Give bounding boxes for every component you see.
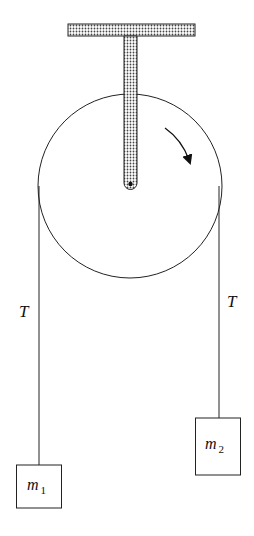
mass-symbol: m: [27, 476, 39, 493]
mass-subscript: 2: [219, 443, 225, 455]
rotation-arrow-icon: [165, 128, 189, 160]
atwood-diagram: [0, 0, 254, 536]
axle: [128, 182, 132, 186]
mass-label-2: m2: [205, 435, 224, 455]
tension-label-right: T: [227, 292, 236, 312]
mass-label-1: m1: [27, 476, 46, 496]
ceiling-support: [68, 24, 195, 36]
mass-symbol: m: [205, 435, 217, 452]
pulley-stem: [124, 36, 137, 190]
tension-label-left: T: [19, 302, 28, 322]
mass-subscript: 1: [41, 484, 47, 496]
